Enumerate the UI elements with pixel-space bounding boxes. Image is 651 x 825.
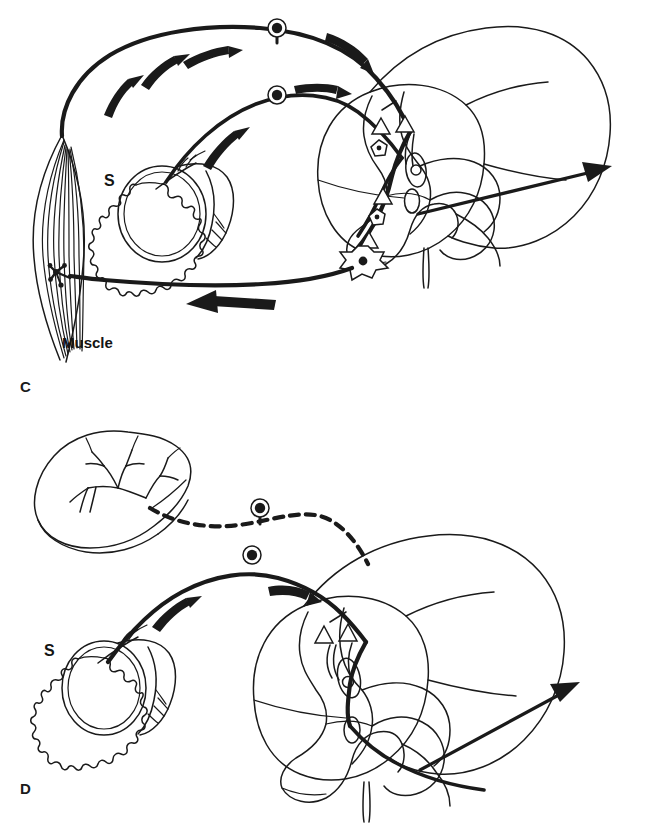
afferent-fiber-skin <box>62 27 410 136</box>
afferent-arrow-skin-d1 <box>152 596 202 632</box>
dorsal-root-ganglion-upper <box>268 19 286 43</box>
somatic-afferent-fiber-d <box>108 574 366 662</box>
panel-c: S <box>33 19 612 362</box>
central-canal-c <box>405 189 420 213</box>
muscle-label: Muscle <box>62 334 113 351</box>
skin-label-d: S <box>44 642 55 659</box>
panel-letter-c: C <box>20 378 31 395</box>
skin-label-c: S <box>104 172 115 189</box>
afferent-arrow-skin-d2 <box>268 586 322 606</box>
panel-d: S <box>31 431 580 822</box>
spinal-cord-d <box>253 535 564 822</box>
panel-letter-d: D <box>20 780 31 797</box>
dorsal-root-ganglion-somatic <box>243 546 261 564</box>
afferent-arrow-skin-3 <box>183 46 243 69</box>
efferent-arrow-motor <box>186 290 276 313</box>
efferent-fiber-c <box>70 268 352 285</box>
afferent-arrow-skin-1 <box>104 75 144 118</box>
dorsal-rootlet-c <box>382 101 396 110</box>
visceral-organ <box>35 431 191 553</box>
afferent-arrow-skin-2 <box>141 54 190 90</box>
dorsal-root-ganglion-lower <box>268 86 286 104</box>
afferent-arrow-into-cord <box>325 33 374 74</box>
neuroanatomy-figure: .ln{fill:none;stroke:#1a1a1a;stroke-line… <box>0 0 651 825</box>
projection-neuron-c <box>404 152 429 188</box>
muscle <box>33 135 84 362</box>
interneuron-c1 <box>371 140 387 156</box>
